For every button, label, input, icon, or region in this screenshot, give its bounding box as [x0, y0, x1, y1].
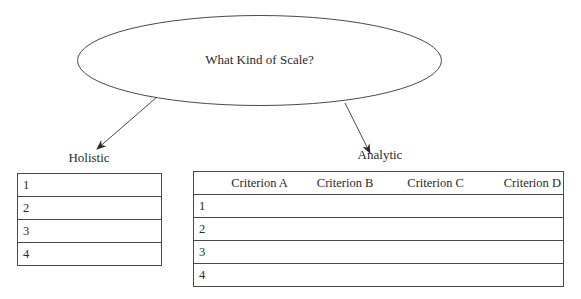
cell — [219, 264, 301, 287]
table-row: 2 — [194, 218, 564, 241]
cell — [219, 218, 301, 241]
table-row: 3 — [18, 220, 162, 243]
cell — [390, 195, 481, 218]
cell — [481, 218, 563, 241]
cell — [300, 218, 389, 241]
cell — [300, 264, 389, 287]
holistic-label: Holistic — [17, 150, 161, 166]
analytic-scale-table: Criterion A Criterion B Criterion C Crit… — [193, 171, 564, 287]
cell — [481, 195, 563, 218]
cell — [481, 264, 563, 287]
arrow-to-holistic — [97, 97, 157, 149]
column-header-criterion-b: Criterion B — [300, 172, 389, 195]
table-row: 1 — [18, 174, 162, 197]
cell — [219, 241, 301, 264]
holistic-row-label: 1 — [18, 174, 162, 197]
column-header-criterion-c: Criterion C — [390, 172, 481, 195]
root-node-label: What Kind of Scale? — [77, 52, 442, 68]
table-header-row: Criterion A Criterion B Criterion C Crit… — [194, 172, 564, 195]
arrow-to-analytic — [345, 103, 370, 153]
cell — [300, 241, 389, 264]
analytic-label: Analytic — [330, 147, 430, 163]
header-corner-cell — [194, 172, 219, 195]
holistic-scale-table: 1 2 3 4 — [17, 173, 162, 266]
cell — [300, 195, 389, 218]
cell — [390, 264, 481, 287]
analytic-row-label: 4 — [194, 264, 219, 287]
column-header-criterion-d: Criterion D — [481, 172, 563, 195]
table-row: 4 — [18, 243, 162, 266]
analytic-row-label: 3 — [194, 241, 219, 264]
analytic-row-label: 2 — [194, 218, 219, 241]
cell — [390, 241, 481, 264]
column-header-criterion-a: Criterion A — [219, 172, 301, 195]
cell — [219, 195, 301, 218]
holistic-row-label: 4 — [18, 243, 162, 266]
table-row: 3 — [194, 241, 564, 264]
holistic-row-label: 3 — [18, 220, 162, 243]
analytic-row-label: 1 — [194, 195, 219, 218]
holistic-row-label: 2 — [18, 197, 162, 220]
table-row: 4 — [194, 264, 564, 287]
table-row: 1 — [194, 195, 564, 218]
cell — [390, 218, 481, 241]
cell — [481, 241, 563, 264]
table-row: 2 — [18, 197, 162, 220]
